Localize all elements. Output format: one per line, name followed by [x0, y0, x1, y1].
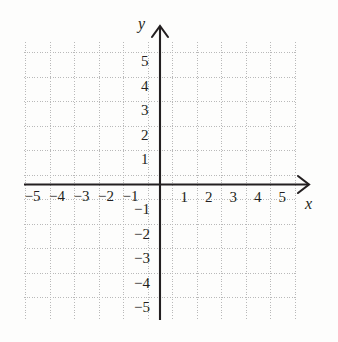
axis-arrowheads: [152, 26, 309, 193]
x-tick-label-2: 2: [205, 190, 213, 205]
y-tick-label--5: −5: [134, 300, 150, 315]
x-tick-label-4: 4: [254, 190, 262, 205]
y-axis-label: y: [138, 16, 145, 32]
x-tick-label-3: 3: [230, 190, 238, 205]
x-tick-label--4: −4: [49, 189, 65, 204]
axis-lines: [24, 26, 308, 320]
y-tick-label-4: 4: [141, 79, 149, 94]
x-tick-label--5: −5: [25, 189, 41, 204]
x-tick-label--3: −3: [74, 189, 90, 204]
y-tick-label--2: −2: [134, 227, 150, 242]
coordinate-plane-graphic: [0, 0, 338, 342]
x-axis-label: x: [305, 196, 312, 212]
y-tick-label-5: 5: [141, 54, 149, 69]
y-tick-label-3: 3: [141, 103, 149, 118]
coordinate-plane-figure: −5−4−3−2−11234554321−1−2−3−4−5 x y: [0, 0, 338, 342]
y-tick-label-2: 2: [141, 128, 149, 143]
x-tick-label-1: 1: [181, 190, 189, 205]
y-tick-label--3: −3: [134, 251, 150, 266]
x-tick-label-5: 5: [279, 190, 287, 205]
y-tick-label-1: 1: [141, 152, 149, 167]
x-tick-label--2: −2: [98, 189, 114, 204]
y-tick-label--1: −1: [134, 202, 150, 217]
y-tick-label--4: −4: [134, 276, 150, 291]
